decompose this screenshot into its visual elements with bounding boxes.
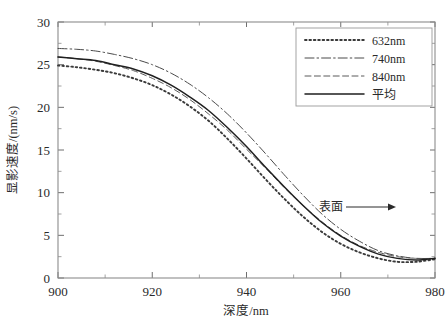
surface-annotation-label: 表面 <box>319 200 343 214</box>
y-tick-label: 10 <box>37 185 50 200</box>
y-tick-label: 0 <box>44 271 51 286</box>
legend: 632nm740nm840nm平均 <box>296 28 432 106</box>
y-tick-label: 30 <box>37 15 50 30</box>
surface-arrow-head-icon <box>388 204 396 211</box>
x-tick-label: 900 <box>48 284 68 299</box>
legend-label-740nm: 740nm <box>372 52 406 66</box>
surface-annotation: 表面 <box>319 200 396 214</box>
y-tick-label: 15 <box>37 143 50 158</box>
chart-container: 900920940960980051015202530 深度/nm 显影速度/(… <box>0 0 448 332</box>
y-tick-label: 25 <box>37 57 50 72</box>
x-tick-label: 940 <box>237 284 257 299</box>
legend-label-632nm: 632nm <box>372 34 406 48</box>
x-tick-label: 980 <box>425 284 445 299</box>
y-tick-label: 20 <box>37 100 50 115</box>
x-tick-label: 960 <box>331 284 351 299</box>
x-axis-title: 深度/nm <box>223 303 269 318</box>
legend-label-平均: 平均 <box>372 88 396 102</box>
x-tick-label: 920 <box>143 284 163 299</box>
y-tick-label: 5 <box>44 228 51 243</box>
line-chart: 900920940960980051015202530 深度/nm 显影速度/(… <box>0 0 448 332</box>
y-axis-title: 显影速度/(nm/s) <box>5 106 20 194</box>
legend-label-840nm: 840nm <box>372 70 406 84</box>
